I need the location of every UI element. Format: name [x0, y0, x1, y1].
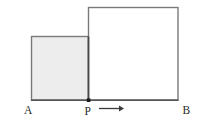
vertex-label-p: P: [85, 105, 91, 117]
vertex-label-b: B: [183, 104, 191, 116]
left-square-shape: [32, 37, 89, 101]
geometry-figure: A P B: [0, 0, 200, 123]
figure-canvas: A P B: [0, 0, 200, 123]
point-marker-p: [87, 98, 91, 102]
motion-arrow-icon: [99, 106, 124, 112]
right-square-shape: [89, 8, 179, 101]
vertex-label-a: A: [24, 104, 33, 116]
